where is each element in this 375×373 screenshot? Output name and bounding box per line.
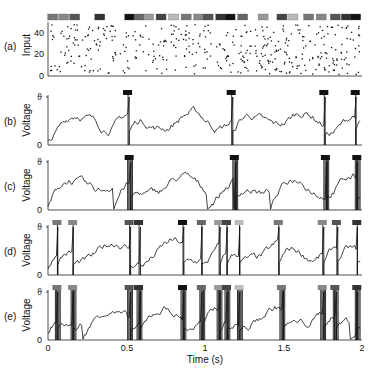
spike-marker <box>178 220 187 225</box>
ylabel-e: Voltage <box>21 298 32 332</box>
spike-marker <box>68 285 77 290</box>
spike-marker <box>214 220 223 225</box>
panel-label-e: (e) <box>4 311 16 322</box>
pattern-bars <box>48 14 361 20</box>
spike-marker <box>197 285 206 290</box>
pattern-bar <box>203 14 213 20</box>
spike-marker <box>134 285 143 290</box>
xlabel: Time (s) <box>187 354 223 365</box>
voltage-trace <box>48 162 360 210</box>
panel-label-b: (b) <box>4 116 16 127</box>
voltage-trace <box>48 97 360 145</box>
spike-marker <box>277 285 286 290</box>
spike-marker <box>351 90 360 95</box>
ytick-0: 0 <box>37 140 42 150</box>
spike-marker <box>235 285 244 290</box>
pattern-bar <box>143 14 153 20</box>
pattern-bar <box>48 14 58 20</box>
pattern-bar <box>156 14 166 20</box>
threshold-label: ϑ <box>37 222 42 232</box>
pattern-bar <box>238 14 248 20</box>
spike-marker <box>68 220 77 225</box>
panel-label-a: (a) <box>4 41 16 52</box>
ylabel-a: Input <box>21 34 32 56</box>
pattern-bar <box>125 14 135 20</box>
spike-marker <box>222 220 231 225</box>
pattern-bar <box>194 14 204 20</box>
spike-marker <box>123 90 132 95</box>
x-axis: 0 0.5 1 1.5 2 Time (s) <box>45 343 364 365</box>
spike-marker <box>319 90 328 95</box>
spike-marker <box>274 220 283 225</box>
spike-marker <box>318 285 327 290</box>
voltage-trace <box>48 292 360 340</box>
spike-marker <box>125 285 134 290</box>
xtick-1: 1 <box>202 343 207 353</box>
ytick-20: 20 <box>34 49 44 59</box>
panel-d: (d)Voltageϑ0 <box>4 220 362 280</box>
pattern-bar <box>258 14 268 20</box>
pattern-bar <box>304 14 314 20</box>
spike-marker <box>52 220 61 225</box>
spike-marker <box>134 220 143 225</box>
panel-c: (c)Voltageϑ0 <box>4 155 362 215</box>
panel-label-d: (d) <box>4 246 16 257</box>
ytick-0: 0 <box>37 335 42 345</box>
pattern-bar <box>169 14 179 20</box>
panel-b: (b)Voltageϑ0 <box>4 90 362 150</box>
spike-marker <box>330 285 339 290</box>
panel-label-c: (c) <box>4 181 16 192</box>
spike-marker <box>230 155 239 160</box>
xtick-0: 0 <box>45 343 50 353</box>
spike-marker <box>125 220 134 225</box>
threshold-label: ϑ <box>37 157 42 167</box>
ylabel-d: Voltage <box>21 233 32 267</box>
spike-marker <box>125 155 134 160</box>
pattern-bar <box>225 14 235 20</box>
spike-marker <box>318 220 327 225</box>
pattern-bar <box>351 14 361 20</box>
pattern-bar <box>216 14 226 20</box>
pattern-bar <box>134 14 144 20</box>
spike-raster <box>50 24 360 75</box>
xtick-2: 2 <box>359 343 364 353</box>
pattern-bar <box>277 14 287 20</box>
ylabel-c: Voltage <box>21 168 32 202</box>
threshold-label: ϑ <box>37 92 42 102</box>
pattern-bar <box>288 14 298 20</box>
pattern-bar <box>70 14 80 20</box>
pattern-bar <box>95 14 105 20</box>
spike-marker <box>227 90 236 95</box>
spike-marker <box>214 285 223 290</box>
spike-marker <box>332 220 341 225</box>
ytick-0: 0 <box>37 205 42 215</box>
pattern-bar <box>316 14 326 20</box>
pattern-bar <box>330 14 340 20</box>
spike-marker <box>352 220 361 225</box>
voltage-trace <box>48 227 360 275</box>
ytick-0: 0 <box>39 71 44 81</box>
ytick-40: 40 <box>34 28 44 38</box>
pattern-bar <box>59 14 69 20</box>
spike-marker <box>235 220 244 225</box>
spike-marker <box>178 285 187 290</box>
xtick-0.5: 0.5 <box>121 343 134 353</box>
spike-marker <box>352 285 361 290</box>
ytick-0: 0 <box>37 270 42 280</box>
spike-marker <box>321 155 330 160</box>
panel-e: (e)Voltageϑ0 <box>4 285 362 345</box>
spike-marker <box>222 285 231 290</box>
pattern-bar <box>181 14 191 20</box>
threshold-label: ϑ <box>37 287 42 297</box>
figure: (a) Input 0 20 40 (b)Voltageϑ0(c)Voltage… <box>0 0 375 373</box>
xtick-1.5: 1.5 <box>278 343 291 353</box>
ylabel-b: Voltage <box>21 103 32 137</box>
spike-marker <box>352 155 361 160</box>
spike-marker <box>197 220 206 225</box>
pattern-bar <box>341 14 351 20</box>
panel-a: (a) Input 0 20 40 <box>4 14 362 81</box>
spike-marker <box>52 285 61 290</box>
